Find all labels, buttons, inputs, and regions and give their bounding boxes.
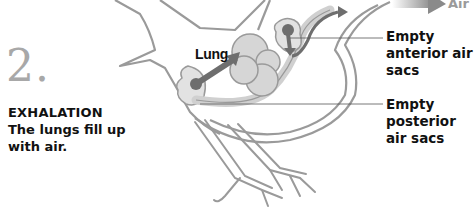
posterior-air-sacs-label: Empty posterior air sacs [386,96,476,147]
step-number: 2. [6,44,50,88]
anterior-air-sacs-label: Empty anterior air sacs [386,28,476,79]
phase-description: The lungs fill up with air. [8,121,138,155]
lung [230,34,280,96]
phase-title: EXHALATION [8,105,103,120]
lung-label: Lung [195,46,228,63]
gradient-arrow-icon [392,0,446,14]
legend-air-label: Air [448,0,469,11]
